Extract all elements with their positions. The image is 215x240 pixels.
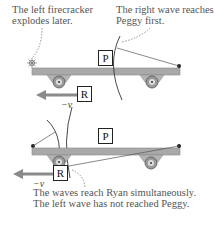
wheel-right-icon-bottom [139, 155, 163, 169]
peggy-box-top: P [98, 50, 113, 66]
ryan-box-top: R [77, 86, 92, 102]
wheel-left-icon [47, 75, 71, 88]
pointer-firecracker-icon [32, 28, 42, 58]
pointer-wave-icon [122, 28, 150, 42]
wheel-right-icon [140, 75, 164, 88]
train-platform [32, 68, 180, 75]
velocity-label-top: −v [61, 99, 72, 110]
ryan-box-bottom: R [53, 165, 68, 181]
caption-bottom-line1: The waves reach Ryan simultaneously. [33, 187, 196, 198]
arrow-left-icon-bottom [13, 169, 23, 179]
pointer-ryan-icon [72, 170, 85, 187]
caption-bottom-line2: The left wave has not reached Peggy. [33, 198, 189, 209]
firecracker-burst-icon [27, 58, 37, 68]
arrow-left-icon [36, 90, 46, 100]
train-platform-bottom [32, 148, 180, 155]
peggy-box-bottom: P [98, 128, 113, 144]
